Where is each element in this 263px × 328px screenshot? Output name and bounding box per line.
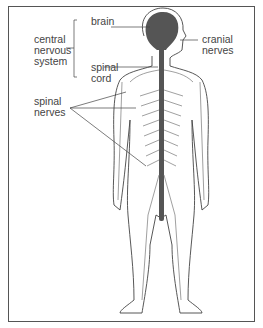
central-nervous-system: [146, 12, 179, 221]
label-cranial-2: nerves: [202, 45, 234, 56]
label-cns-3: system: [34, 56, 67, 67]
label-spinal-cord-2: cord: [91, 73, 111, 84]
torso-outline: [113, 66, 152, 210]
label-spinal-nerves-2: nerves: [34, 107, 66, 118]
spinal-cord: [159, 46, 164, 221]
brain-shape: [146, 12, 179, 50]
leader-lines: [66, 20, 198, 166]
label-brain: brain: [91, 16, 114, 27]
